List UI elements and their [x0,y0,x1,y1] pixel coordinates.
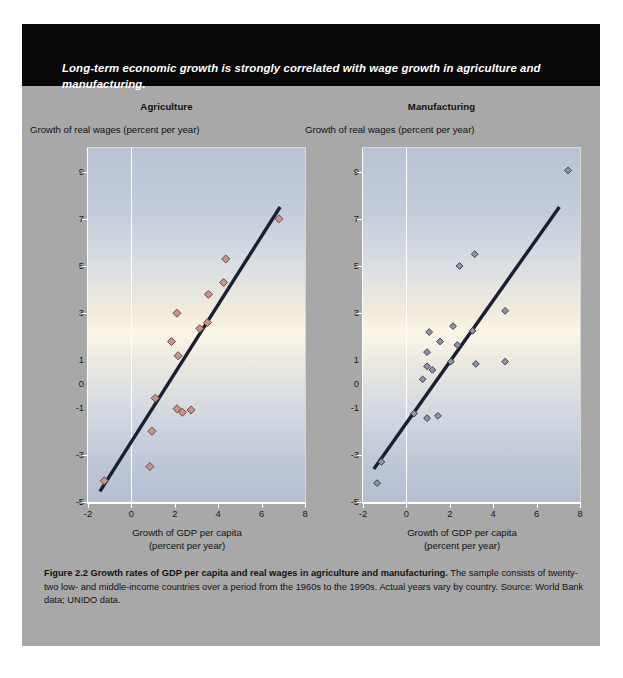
data-point-marker [450,323,457,330]
y-tick-labels-agriculture: 975310-1-3-5 [44,86,84,556]
y-tick-mark [82,172,87,173]
data-point-marker [374,480,381,487]
x-tick-mark [537,502,538,508]
trendline [100,207,280,491]
figure-page: Long-term economic growth is strongly co… [0,0,623,678]
data-point-marker [456,263,463,270]
y-tick-mark [357,313,362,314]
x-tick-mark [88,502,89,508]
data-point-marker [222,255,230,263]
x-tick-label: 4 [206,508,230,519]
data-point-marker [174,352,182,360]
data-point-marker [429,366,436,373]
data-point-marker [437,338,444,345]
y-tick-label: 9 [325,166,359,177]
x-tick-mark [450,502,451,508]
x-tick-mark [363,502,364,508]
x-tick-label: 4 [481,508,505,519]
y-tick-label: -3 [325,449,359,460]
y-tick-label: 1 [325,354,359,365]
y-tick-mark [82,313,87,314]
y-tick-label: 5 [325,260,359,271]
x-tick-mark [406,502,407,508]
figure-caption: Figure 2.2 Growth rates of GDP per capit… [44,567,584,608]
x-axis-label-agriculture: Growth of GDP per capita (percent per ye… [62,526,312,552]
x-axis-label-line2: (percent per year) [337,539,587,552]
data-point-marker [424,415,431,422]
scatter-svg [88,148,305,502]
y-tick-label: 3 [50,307,84,318]
y-axis-line-manufacturing [362,148,363,503]
data-point-marker [502,307,509,314]
x-tick-label: 6 [525,508,549,519]
data-point-marker [424,349,431,356]
x-axis-label-line1: Growth of GDP per capita [337,526,587,539]
data-point-marker [502,358,509,365]
x-tick-label: 0 [394,508,418,519]
data-point-marker [426,329,433,336]
scatter-svg [363,148,580,502]
y-tick-mark [357,172,362,173]
y-tick-label: -3 [50,449,84,460]
y-tick-label: 7 [325,213,359,224]
y-tick-mark [82,502,87,503]
figure-caption-bold: Figure 2.2 Growth rates of GDP per capit… [44,568,448,578]
headline-banner: Long-term economic growth is strongly co… [22,24,600,86]
y-tick-mark [82,266,87,267]
x-tick-label: -2 [76,508,100,519]
data-point-marker [173,309,181,317]
y-tick-label: 1 [50,354,84,365]
y-tick-label: 0 [325,378,359,389]
plot-area-manufacturing [363,148,580,502]
data-point-marker [146,463,154,471]
y-tick-label: 5 [50,260,84,271]
x-axis-label-line1: Growth of GDP per capita [62,526,312,539]
y-tick-label: -5 [50,496,84,507]
data-point-marker [419,376,426,383]
x-tick-mark [580,502,581,508]
y-tick-mark [357,455,362,456]
x-tick-label: 8 [568,508,592,519]
y-tick-mark [357,266,362,267]
x-axis-label-line2: (percent per year) [62,539,312,552]
y-tick-label: 0 [50,378,84,389]
x-tick-mark [262,502,263,508]
y-tick-label: -1 [325,402,359,413]
y-tick-mark [82,219,87,220]
data-point-marker [204,290,212,298]
data-point-marker [168,338,176,346]
data-point-marker [220,279,228,287]
y-tick-label: 9 [50,166,84,177]
x-tick-mark [218,502,219,508]
data-point-marker [565,167,572,174]
data-point-marker [424,363,431,370]
data-point-marker [471,251,478,258]
chart-manufacturing: Manufacturing Growth of real wages (perc… [297,86,586,556]
x-tick-label: 0 [119,508,143,519]
y-tick-label: 7 [50,213,84,224]
y-axis-line-agriculture [87,148,88,503]
x-tick-label: 2 [163,508,187,519]
chart-agriculture: Agriculture Growth of real wages (percen… [22,86,311,556]
y-tick-labels-manufacturing: 975310-1-3-5 [319,86,359,556]
x-tick-label: -2 [351,508,375,519]
data-point-marker [148,427,156,435]
y-tick-mark [82,455,87,456]
data-point-marker [434,412,441,419]
y-tick-mark [357,219,362,220]
y-tick-mark [357,502,362,503]
y-tick-label: -1 [50,402,84,413]
data-point-marker [472,361,479,368]
plot-area-agriculture [88,148,305,502]
data-point-marker [187,406,195,414]
x-axis-line-agriculture [87,502,306,504]
x-tick-mark [131,502,132,508]
x-tick-mark [175,502,176,508]
x-tick-label: 6 [250,508,274,519]
x-axis-line-manufacturing [362,502,581,504]
x-axis-label-manufacturing: Growth of GDP per capita (percent per ye… [337,526,587,552]
y-tick-label: -5 [325,496,359,507]
x-tick-mark [493,502,494,508]
charts-container: Agriculture Growth of real wages (percen… [22,86,600,556]
x-tick-label: 2 [438,508,462,519]
